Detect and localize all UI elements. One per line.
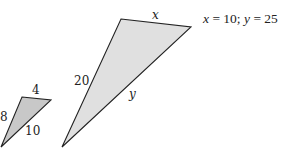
large-top-label: x xyxy=(152,8,159,22)
answer-y-value: = 25 xyxy=(250,11,278,26)
answer-text: x = 10; y = 25 xyxy=(203,11,278,27)
small-left-label: 8 xyxy=(0,110,8,124)
small-right-label: 10 xyxy=(25,124,40,138)
small-top-label: 4 xyxy=(32,83,40,97)
large-right-label: y xyxy=(128,87,136,101)
small-triangle xyxy=(1,97,51,147)
large-left-label: 20 xyxy=(74,74,89,88)
answer-x-value: = 10; xyxy=(209,11,244,26)
